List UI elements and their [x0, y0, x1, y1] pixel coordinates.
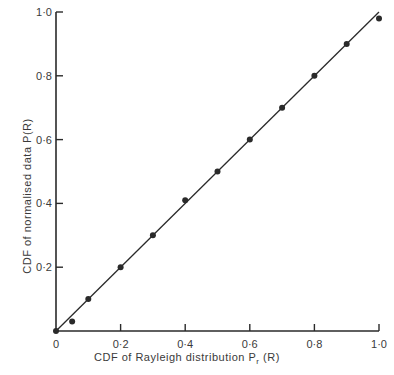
data-point: [311, 73, 317, 79]
y-tick-label: 0·8: [36, 70, 52, 82]
data-point: [69, 318, 75, 324]
x-tick-label: 0·6: [242, 338, 258, 350]
data-point: [150, 232, 156, 238]
data-point: [53, 328, 59, 334]
y-tick-label: 1·0: [36, 6, 52, 18]
y-axis-ticks: 0·20·40·60·81·0: [36, 6, 63, 273]
data-point: [344, 41, 350, 47]
x-tick-label: 0·8: [306, 338, 322, 350]
data-point: [279, 105, 285, 111]
data-point: [182, 197, 188, 203]
x-tick-label: 0·4: [177, 338, 193, 350]
chart: 00·20·40·60·81·0 0·20·40·60·81·0 CDF of …: [0, 0, 394, 375]
data-points: [53, 15, 382, 334]
data-point: [85, 296, 91, 302]
y-tick-label: 0·2: [36, 261, 52, 273]
y-tick-label: 0·6: [36, 134, 52, 146]
x-tick-label: 1·0: [371, 338, 387, 350]
x-tick-label: 0: [53, 338, 59, 350]
x-tick-label: 0·2: [113, 338, 129, 350]
y-tick-label: 0·4: [36, 197, 52, 209]
data-point: [118, 264, 124, 270]
data-point: [376, 15, 382, 21]
data-point: [247, 137, 253, 143]
x-axis-ticks: 00·20·40·60·81·0: [53, 324, 387, 350]
x-axis-title: CDF of Rayleigh distribution Pr (R): [94, 351, 280, 366]
y-axis-title: CDF of normalised data P(R): [21, 118, 33, 273]
data-point: [215, 169, 221, 175]
